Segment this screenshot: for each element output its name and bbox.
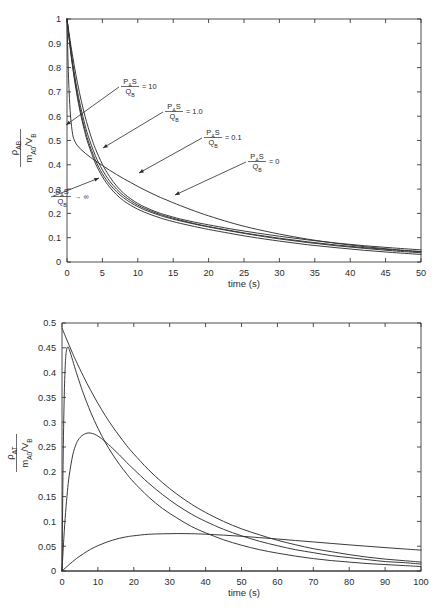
top-ann-0-leader-line — [175, 162, 246, 195]
bottom-y-tick: 0.4 — [43, 368, 56, 378]
top-ann-0-value: = 0 — [269, 157, 279, 166]
top-y-tick: 0.9 — [48, 39, 61, 49]
top-y-tick: 0.4 — [48, 160, 61, 170]
top-x-tick: 50 — [416, 268, 426, 278]
bottom-ylabel-denominator: mA0/VB — [19, 438, 33, 468]
annotation-top-ann-1: PASQB= 1.0 — [103, 102, 203, 148]
top-x-tick: 15 — [168, 268, 178, 278]
bottom-curves-group — [62, 328, 421, 571]
top-ann-inf-denominator: QB — [57, 197, 67, 208]
bottom-y-tick: 0.2 — [43, 467, 56, 477]
bottom-x-tick: 40 — [200, 577, 210, 587]
top-x-tick: 30 — [274, 268, 284, 278]
curve-pas-qb-1-0 — [62, 433, 421, 571]
top-x-tick: 10 — [133, 268, 143, 278]
curve-pas-qb-infinity — [67, 19, 421, 252]
top-y-axis-label: ρAB mA0/VB — [8, 129, 36, 167]
top-y-tick-labels: 00.10.20.30.40.50.60.70.80.91 — [48, 14, 61, 267]
annotation-top-ann-0: PASQB= 0 — [175, 152, 279, 195]
top-chart-svg: 00.10.20.30.40.50.60.70.80.91 0510152025… — [0, 0, 432, 305]
top-x-tick: 35 — [310, 268, 320, 278]
top-ann-1-value: = 1.0 — [186, 107, 203, 116]
bottom-x-tick: 20 — [129, 577, 139, 587]
bottom-x-tick: 70 — [308, 577, 318, 587]
bottom-x-tick: 80 — [344, 577, 354, 587]
bottom-y-tick: 0.3 — [43, 418, 56, 428]
top-ylabel-numerator: ρAB — [8, 140, 22, 155]
top-y-tick: 0.7 — [48, 87, 61, 97]
top-ann-inf-arrowhead — [94, 178, 99, 182]
chart-panel-top: 00.10.20.30.40.50.60.70.80.91 0510152025… — [0, 0, 432, 305]
top-annotations-group: PASQB= 10PASQB= 1.0PASQB= 0.1PASQB= 0PAS… — [51, 77, 279, 208]
bottom-x-tick: 0 — [59, 577, 64, 587]
top-x-tick: 0 — [64, 268, 69, 278]
bottom-x-tick: 90 — [380, 577, 390, 587]
curve-pas-qb-10 — [62, 347, 421, 571]
top-y-tick: 0.1 — [48, 233, 61, 243]
top-ann-01-denominator: QB — [208, 138, 218, 149]
annotation-top-ann-01: PASQB= 0.1 — [139, 128, 242, 173]
top-ann-1-leader-line — [103, 112, 163, 148]
top-y-tick: 0.5 — [48, 136, 61, 146]
top-y-tick: 0.6 — [48, 112, 61, 122]
bottom-y-tick: 0.15 — [38, 492, 56, 502]
bottom-x-tick: 50 — [236, 577, 246, 587]
top-x-tick: 40 — [345, 268, 355, 278]
bottom-x-tick: 60 — [272, 577, 282, 587]
bottom-x-tick: 10 — [93, 577, 103, 587]
figure-container: 00.10.20.30.40.50.60.70.80.91 0510152025… — [0, 0, 432, 613]
top-ann-01-leader-line — [139, 138, 202, 173]
top-y-tick: 0 — [56, 257, 61, 267]
top-ylabel-denominator: mA0/VB — [23, 133, 37, 163]
top-ann-1-denominator: QB — [169, 112, 179, 123]
bottom-ylabel-numerator: ρAT — [4, 446, 18, 459]
curve-pas-qb-infinity — [62, 328, 421, 562]
top-x-axis-label: time (s) — [228, 278, 260, 289]
bottom-x-tick: 100 — [413, 577, 428, 587]
top-tick-marks — [67, 19, 421, 262]
top-x-tick: 45 — [380, 268, 390, 278]
top-ann-01-value: = 0.1 — [225, 133, 242, 142]
bottom-y-tick: 0.5 — [43, 318, 56, 328]
bottom-y-tick: 0.1 — [43, 517, 56, 527]
top-axis-frame — [67, 19, 421, 262]
bottom-x-tick-labels: 0102030405060708090100 — [59, 577, 428, 587]
top-x-tick: 25 — [239, 268, 249, 278]
top-y-tick: 0.8 — [48, 63, 61, 73]
bottom-y-tick: 0.25 — [38, 442, 56, 452]
top-y-tick: 1 — [56, 14, 61, 24]
top-x-tick-labels: 05101520253035404550 — [64, 268, 426, 278]
top-y-tick: 0.2 — [48, 209, 61, 219]
bottom-x-tick: 30 — [165, 577, 175, 587]
curve-pas-qb-10 — [67, 19, 421, 250]
bottom-y-tick: 0.35 — [38, 393, 56, 403]
bottom-tick-marks — [62, 323, 421, 571]
bottom-y-axis-label: ρAT mA0/VB — [4, 434, 32, 472]
top-ann-10-denominator: QB — [125, 87, 135, 98]
curve-pas-qb-0-1 — [62, 534, 421, 571]
bottom-axis-frame — [62, 323, 421, 571]
curve-pas-qb-1-0 — [67, 19, 421, 252]
top-x-tick: 5 — [100, 268, 105, 278]
bottom-y-tick: 0 — [51, 566, 56, 576]
curve-pas-qb-0-1 — [67, 19, 421, 253]
annotation-top-ann-inf: PASQB→ ∞ — [51, 178, 99, 208]
top-x-tick: 20 — [203, 268, 213, 278]
bottom-chart-svg: 00.050.10.150.20.250.30.350.40.450.5 010… — [0, 305, 432, 613]
bottom-y-tick: 0.45 — [38, 343, 56, 353]
bottom-y-tick-labels: 00.050.10.150.20.250.30.350.40.450.5 — [38, 318, 56, 576]
bottom-x-axis-label: time (s) — [228, 587, 260, 598]
bottom-y-tick: 0.05 — [38, 542, 56, 552]
top-ann-1-arrowhead — [103, 144, 108, 148]
top-ann-10-leader-line — [66, 87, 119, 125]
chart-panel-bottom: 00.050.10.150.20.250.30.350.40.450.5 010… — [0, 305, 432, 613]
top-ann-0-denominator: QB — [252, 162, 262, 173]
curve-pas-qb-0 — [67, 19, 421, 254]
top-curves-group — [67, 19, 421, 254]
top-ann-inf-value: → ∞ — [74, 192, 89, 201]
top-ann-10-value: = 10 — [142, 82, 157, 91]
